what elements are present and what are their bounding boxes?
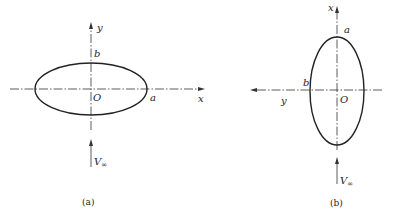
y-axis-label-b: y [280, 95, 287, 106]
origin-label-a: O [93, 92, 101, 103]
velocity-label-a: V∞ [94, 156, 107, 169]
ellipse-diagram: y b O a x V∞ (a) x a b y O V∞ (b) [0, 0, 403, 214]
semi-major-label-b: a [344, 24, 350, 35]
y-axis-arrowhead-a [89, 22, 93, 29]
y-axis-label-a: y [96, 22, 103, 33]
semi-minor-label-b: b [303, 77, 309, 88]
semi-major-label-a: a [150, 92, 156, 103]
x-axis-label-b: x [328, 2, 334, 13]
velocity-subscript-b: ∞ [347, 180, 353, 188]
semi-minor-label-a: b [94, 48, 100, 59]
x-axis-arrowhead-b [335, 6, 339, 13]
caption-a: (a) [82, 197, 94, 207]
figure-a: y b O a x V∞ (a) [10, 22, 205, 207]
y-axis-arrowhead-b [250, 88, 257, 92]
velocity-arrowhead-b [335, 157, 339, 164]
origin-label-b: O [340, 94, 348, 105]
velocity-subscript-a: ∞ [101, 161, 107, 169]
x-axis-label-a: x [198, 93, 204, 104]
velocity-label-b: V∞ [340, 175, 353, 188]
caption-b: (b) [330, 198, 343, 208]
figure-b: x a b y O V∞ (b) [250, 2, 382, 208]
x-axis-arrowhead-a [198, 87, 205, 91]
velocity-arrowhead-a [89, 139, 93, 146]
